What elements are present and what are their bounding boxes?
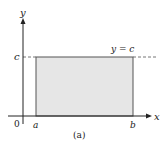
origin-label: 0 <box>14 119 20 129</box>
y-axis-label: y <box>19 7 26 18</box>
c-label: c <box>14 51 20 62</box>
constant-function-area-diagram: y x c y = c 0 a b (a) <box>0 0 164 141</box>
figure-caption: (a) <box>73 130 85 140</box>
x-axis-arrow-icon <box>146 114 152 119</box>
a-label: a <box>33 120 38 130</box>
y-axis-arrow-icon <box>21 18 26 24</box>
line-label: y = c <box>110 44 134 54</box>
x-axis-label: x <box>154 111 160 122</box>
shaded-region <box>36 57 133 116</box>
b-label: b <box>130 120 136 130</box>
